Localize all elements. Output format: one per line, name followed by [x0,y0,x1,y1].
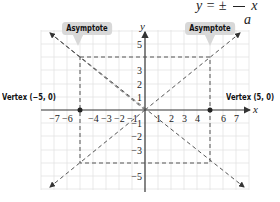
svg-text:−3: −3 [101,113,112,124]
vertex-left-label: Vertex (−5, 0) [2,93,56,102]
asymptote-callout-left: Asymptote [62,22,112,35]
svg-text:−7: −7 [49,113,60,124]
svg-text:−2: −2 [114,113,125,124]
vertex-right-label: Vertex (5, 0) [226,93,274,102]
vertex-right-dot [208,108,213,113]
svg-text:−3: −3 [131,145,142,156]
axes [41,32,250,192]
svg-text:−5: −5 [131,171,142,182]
svg-text:1: 1 [137,92,142,103]
svg-text:−1: −1 [131,118,142,129]
svg-text:5: 5 [137,39,142,50]
y-axis-label: y [139,20,145,32]
svg-text:1: 1 [156,113,161,124]
svg-text:3: 3 [137,65,142,76]
svg-text:7: 7 [234,113,239,124]
svg-text:−6: −6 [62,113,73,124]
svg-text:−2: −2 [131,131,142,142]
vertex-left-dot [78,108,83,113]
svg-text:4: 4 [195,113,200,124]
svg-text:3: 3 [182,113,187,124]
svg-text:2: 2 [137,79,142,90]
svg-text:−4: −4 [88,113,99,124]
svg-text:6: 6 [221,113,226,124]
x-axis-label: x [252,103,258,115]
asymptote-callout-right: Asymptote [185,22,235,35]
svg-text:2: 2 [169,113,174,124]
